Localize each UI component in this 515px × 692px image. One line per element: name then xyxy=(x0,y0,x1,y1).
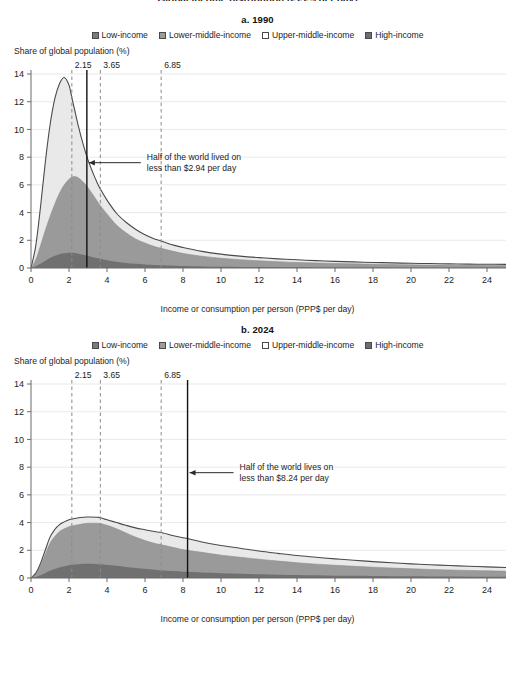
area-lower-middle-income xyxy=(31,177,506,268)
legend-item-lower-middle-income: Lower-middle-income xyxy=(159,340,251,350)
legend-label-lower-middle-income: Lower-middle-income xyxy=(169,340,251,350)
annotation-text-line1: Half of the world lives on xyxy=(240,462,334,472)
annotation-text-line1: Half of the world lived on xyxy=(147,152,241,162)
plot-area-b: 2.153.656.85Half of the world lives onle… xyxy=(0,366,515,616)
legend-swatch-low-income xyxy=(92,342,99,349)
annotation-arrow-head xyxy=(190,470,196,475)
legend-item-high-income: High-income xyxy=(365,340,423,350)
x-tick-label-16: 16 xyxy=(330,275,340,285)
x-tick-label-6: 6 xyxy=(142,275,147,285)
x-tick-label-12: 12 xyxy=(254,275,264,285)
y-tick-label-10: 10 xyxy=(14,125,24,135)
legend-label-high-income: High-income xyxy=(375,30,423,40)
panel-title-b: b. 2024 xyxy=(0,324,515,335)
y-tick-label-14: 14 xyxy=(14,379,24,389)
x-tick-label-20: 20 xyxy=(406,275,416,285)
threshold-label-6.85: 6.85 xyxy=(164,60,181,70)
x-tick-label-0: 0 xyxy=(28,585,33,595)
chart-svg-2024: 2.153.656.85Half of the world lives onle… xyxy=(0,366,515,616)
legend-swatch-low-income xyxy=(92,32,99,39)
y-tick-label-6: 6 xyxy=(19,490,24,500)
y-tick-label-4: 4 xyxy=(19,208,24,218)
panel-2024: b. 2024 Low-income Lower-middle-income U… xyxy=(0,314,515,624)
threshold-label-2.15: 2.15 xyxy=(75,370,92,380)
legend-label-upper-middle-income: Upper-middle-income xyxy=(272,30,354,40)
x-tick-label-2: 2 xyxy=(66,275,71,285)
x-tick-label-22: 22 xyxy=(444,585,454,595)
x-tick-label-8: 8 xyxy=(180,585,185,595)
y-tick-label-4: 4 xyxy=(19,518,24,528)
x-tick-label-20: 20 xyxy=(406,585,416,595)
legend-label-lower-middle-income: Lower-middle-income xyxy=(169,30,251,40)
y-axis-title-b: Share of global population (%) xyxy=(14,356,515,366)
legend-swatch-upper-middle-income xyxy=(262,32,269,39)
legend-label-low-income: Low-income xyxy=(102,340,148,350)
y-tick-label-2: 2 xyxy=(19,235,24,245)
legend-swatch-lower-middle-income xyxy=(159,342,166,349)
legend-item-low-income: Low-income xyxy=(92,340,148,350)
legend-item-low-income: Low-income xyxy=(92,30,148,40)
legend-label-high-income: High-income xyxy=(375,340,423,350)
annotation-text-line2: less than $8.24 per day xyxy=(240,473,330,483)
legend-item-lower-middle-income: Lower-middle-income xyxy=(159,30,251,40)
legend-item-upper-middle-income: Upper-middle-income xyxy=(262,30,354,40)
x-tick-label-2: 2 xyxy=(66,585,71,595)
panel-title-a: a. 1990 xyxy=(0,14,515,25)
chart-body: 2.153.656.85Half of the world lived onle… xyxy=(14,60,506,285)
y-tick-label-0: 0 xyxy=(19,263,24,273)
legend-b: Low-income Lower-middle-income Upper-mid… xyxy=(0,340,515,350)
y-tick-label-6: 6 xyxy=(19,180,24,190)
threshold-label-3.65: 3.65 xyxy=(103,370,120,380)
annotation-text-line2: less than $2.94 per day xyxy=(147,163,237,173)
x-tick-label-24: 24 xyxy=(482,585,492,595)
x-tick-label-4: 4 xyxy=(104,585,109,595)
threshold-label-3.65: 3.65 xyxy=(103,60,120,70)
y-tick-label-8: 8 xyxy=(19,152,24,162)
legend-a: Low-income Lower-middle-income Upper-mid… xyxy=(0,30,515,40)
x-tick-label-6: 6 xyxy=(142,585,147,595)
x-tick-label-14: 14 xyxy=(292,275,302,285)
x-tick-label-22: 22 xyxy=(444,275,454,285)
y-tick-label-2: 2 xyxy=(19,545,24,555)
legend-swatch-high-income xyxy=(365,32,372,39)
y-tick-label-0: 0 xyxy=(19,573,24,583)
legend-swatch-lower-middle-income xyxy=(159,32,166,39)
legend-label-upper-middle-income: Upper-middle-income xyxy=(272,340,354,350)
x-tick-label-10: 10 xyxy=(216,275,226,285)
legend-label-low-income: Low-income xyxy=(102,30,148,40)
y-tick-label-12: 12 xyxy=(14,407,24,417)
x-tick-label-10: 10 xyxy=(216,585,226,595)
y-axis-title-a: Share of global population (%) xyxy=(14,46,515,56)
y-tick-label-14: 14 xyxy=(14,69,24,79)
legend-swatch-high-income xyxy=(365,342,372,349)
chart-svg-1990: 2.153.656.85Half of the world lived onle… xyxy=(0,56,515,306)
x-tick-label-4: 4 xyxy=(104,275,109,285)
y-tick-label-12: 12 xyxy=(14,97,24,107)
figure-page: Global income distribution (PPP$ per day… xyxy=(0,0,515,692)
x-tick-label-0: 0 xyxy=(28,275,33,285)
x-tick-label-16: 16 xyxy=(330,585,340,595)
panel-1990: a. 1990 Low-income Lower-middle-income U… xyxy=(0,0,515,314)
legend-item-high-income: High-income xyxy=(365,30,423,40)
x-tick-label-24: 24 xyxy=(482,275,492,285)
chart-body: 2.153.656.85Half of the world lives onle… xyxy=(14,370,506,595)
threshold-label-6.85: 6.85 xyxy=(164,370,181,380)
x-tick-label-14: 14 xyxy=(292,585,302,595)
x-tick-label-12: 12 xyxy=(254,585,264,595)
legend-item-upper-middle-income: Upper-middle-income xyxy=(262,340,354,350)
x-tick-label-18: 18 xyxy=(368,585,378,595)
legend-swatch-upper-middle-income xyxy=(262,342,269,349)
x-tick-label-18: 18 xyxy=(368,275,378,285)
x-tick-label-8: 8 xyxy=(180,275,185,285)
plot-area-a: 2.153.656.85Half of the world lived onle… xyxy=(0,56,515,306)
y-tick-label-10: 10 xyxy=(14,435,24,445)
threshold-label-2.15: 2.15 xyxy=(75,60,92,70)
y-tick-label-8: 8 xyxy=(19,462,24,472)
